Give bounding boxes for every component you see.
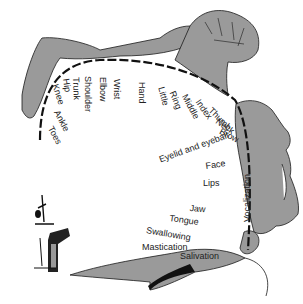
hand-figure: [175, 11, 259, 96]
label-jaw: Jaw: [189, 204, 206, 214]
label-hand: Hand: [137, 82, 146, 104]
label-trunk: Trunk: [71, 77, 81, 100]
vocalization-label: Vocalization: [243, 174, 252, 222]
label-salivation: Salivation: [180, 252, 219, 261]
leg-small-figure: [35, 195, 54, 224]
label-wrist: Wrist: [112, 79, 121, 99]
homunculus-illustration: [0, 0, 303, 304]
label-lips: Lips: [203, 179, 220, 188]
label-shoulder: Shoulder: [83, 76, 92, 112]
label-elbow: Elbow: [98, 77, 107, 102]
homunculus-diagram: ToesAnkleKneeHipTrunkShoulderElbowWristH…: [0, 0, 303, 304]
